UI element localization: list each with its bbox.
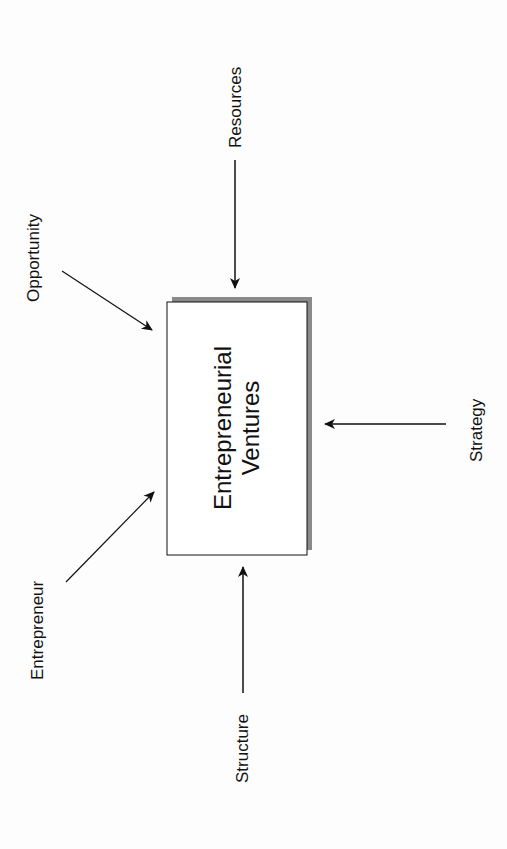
diagram-canvas: Entrepreneurial Ventures Resources Oppor… <box>0 0 507 849</box>
resources-label: Resources <box>226 67 245 148</box>
opportunity-label: Opportunity <box>24 214 43 302</box>
entrepreneur-label: Entrepreneur <box>28 580 47 680</box>
opportunity-arrow <box>62 271 152 330</box>
structure-label: Structure <box>233 714 252 783</box>
center-label-line1: Entrepreneurial <box>209 346 236 510</box>
entrepreneur-arrow <box>66 492 154 582</box>
center-label-line2: Ventures <box>237 381 264 476</box>
strategy-label: Strategy <box>467 398 486 462</box>
